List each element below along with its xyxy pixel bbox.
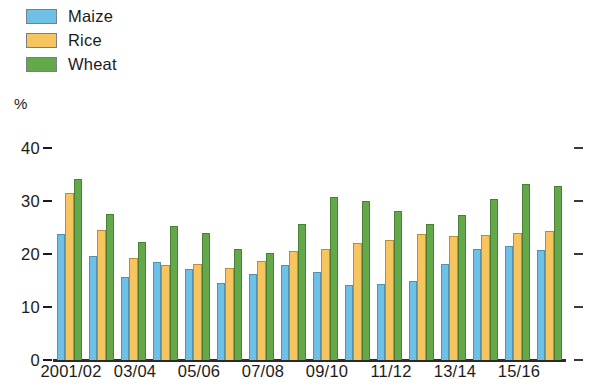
- bar-maize: [441, 264, 449, 360]
- bar-rice: [225, 268, 233, 360]
- bar-group: [471, 140, 503, 360]
- y-axis-right-tick-mark: [574, 200, 583, 202]
- bar-maize: [217, 283, 225, 360]
- bar-rice: [513, 233, 521, 360]
- x-axis-tick-label: 05/06: [178, 362, 220, 381]
- bar-rice: [161, 265, 169, 360]
- bar-maize: [345, 285, 353, 360]
- bar-maize: [313, 272, 321, 361]
- bar-group: [439, 140, 471, 360]
- bar-rice: [129, 258, 137, 360]
- bar-wheat: [394, 211, 402, 360]
- y-axis-tick-label: 20: [6, 244, 40, 263]
- y-axis-tick-label: 0: [6, 350, 40, 369]
- bar-group: [375, 140, 407, 360]
- bar-wheat: [74, 179, 82, 360]
- y-axis-tick-label: 40: [6, 138, 40, 157]
- y-axis-right-tick-mark: [574, 253, 583, 255]
- bar-group: [247, 140, 279, 360]
- bar-wheat: [330, 197, 338, 360]
- bar-maize: [409, 281, 417, 361]
- bar-wheat: [266, 253, 274, 360]
- bar-maize: [185, 269, 193, 360]
- bar-rice: [321, 249, 329, 360]
- y-axis-right-tick-mark: [574, 359, 583, 361]
- bar-group: [343, 140, 375, 360]
- x-axis-tick-label: 13/14: [434, 362, 476, 381]
- bar-maize: [281, 265, 289, 360]
- bar-group: [279, 140, 311, 360]
- bar-maize: [473, 249, 481, 360]
- bar-rice: [353, 243, 361, 360]
- bar-wheat: [234, 249, 242, 360]
- x-axis-tick-label: 2001/02: [40, 362, 101, 381]
- y-axis-tick-label: 30: [6, 191, 40, 210]
- bar-wheat: [522, 184, 530, 360]
- bar-rice: [481, 235, 489, 360]
- bar-group: [535, 140, 567, 360]
- bar-maize: [89, 256, 97, 360]
- y-axis-tick-label: 10: [6, 297, 40, 316]
- bar-groups: [55, 140, 567, 360]
- bar-maize: [121, 277, 129, 360]
- bar-rice: [545, 231, 553, 360]
- bar-rice: [449, 236, 457, 360]
- bar-group: [311, 140, 343, 360]
- bar-maize: [57, 234, 65, 360]
- bar-wheat: [202, 233, 210, 360]
- bar-group: [215, 140, 247, 360]
- bar-group: [119, 140, 151, 360]
- bar-rice: [289, 251, 297, 360]
- bar-wheat: [362, 201, 370, 360]
- bar-group: [407, 140, 439, 360]
- x-axis-tick-label: 15/16: [498, 362, 540, 381]
- bar-wheat: [298, 224, 306, 360]
- y-axis-tick-mark: [43, 253, 52, 255]
- x-axis-labels: 2001/0203/0405/0607/0809/1011/1213/1415/…: [55, 362, 567, 388]
- bar-rice: [417, 234, 425, 360]
- bar-rice: [193, 264, 201, 360]
- bar-group: [87, 140, 119, 360]
- y-axis-tick-mark: [43, 200, 52, 202]
- x-axis-tick-label: 07/08: [242, 362, 284, 381]
- bar-rice: [97, 230, 105, 360]
- x-axis-tick-label: 03/04: [114, 362, 156, 381]
- bar-wheat: [426, 224, 434, 360]
- bar-wheat: [106, 214, 114, 360]
- bar-wheat: [458, 215, 466, 360]
- x-axis-tick-label: 09/10: [306, 362, 348, 381]
- bar-rice: [257, 261, 265, 360]
- bar-group: [183, 140, 215, 360]
- y-axis-tick-mark: [43, 306, 52, 308]
- bar-group: [55, 140, 87, 360]
- bar-group: [151, 140, 183, 360]
- y-axis-right-tick-mark: [574, 306, 583, 308]
- bar-wheat: [170, 226, 178, 360]
- bar-rice: [65, 193, 73, 360]
- bar-maize: [377, 284, 385, 360]
- y-axis-tick-mark: [43, 147, 52, 149]
- bar-wheat: [554, 186, 562, 360]
- y-axis-tick-mark: [43, 359, 52, 361]
- bar-maize: [505, 246, 513, 360]
- chart-plot-area: 010203040 2001/0203/0405/0607/0809/1011/…: [0, 0, 591, 389]
- bar-maize: [537, 250, 545, 360]
- bar-wheat: [138, 242, 146, 360]
- bar-wheat: [490, 199, 498, 360]
- bar-group: [503, 140, 535, 360]
- bar-rice: [385, 240, 393, 360]
- x-axis-tick-label: 11/12: [370, 362, 411, 381]
- bar-maize: [153, 262, 161, 360]
- y-axis-right-tick-mark: [574, 147, 583, 149]
- bar-maize: [249, 274, 257, 360]
